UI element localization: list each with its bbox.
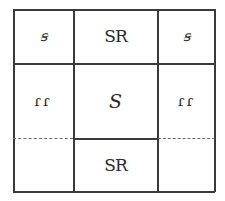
- symbol-grid: ꞩ SR ꞩ ɾɾ S ɾɾ SR: [13, 9, 215, 192]
- grid-border-bottom: [13, 191, 215, 193]
- cell-r2-c0: [13, 139, 73, 191]
- cell-r0-c1: SR: [74, 9, 157, 63]
- cell-r1-c0: ɾɾ: [13, 64, 73, 138]
- cell-r2-c2: [158, 139, 215, 191]
- cell-r0-c0: ꞩ: [13, 9, 73, 63]
- cell-r1-c1: S: [74, 64, 157, 138]
- cell-r1-c2: ɾɾ: [158, 64, 215, 138]
- cell-r0-c2: ꞩ: [158, 9, 215, 63]
- cell-r2-c1: SR: [74, 139, 157, 191]
